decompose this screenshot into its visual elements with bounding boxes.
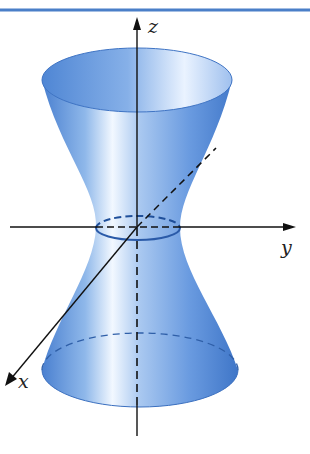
z-axis-arrowhead <box>133 17 141 30</box>
z-axis-label: z <box>147 15 159 37</box>
y-axis-arrowhead <box>283 223 296 231</box>
hyperboloid-surface <box>42 80 238 407</box>
hyperboloid-diagram: z y x <box>0 0 310 454</box>
x-axis-label: x <box>18 370 29 392</box>
y-axis-label: y <box>280 236 292 258</box>
